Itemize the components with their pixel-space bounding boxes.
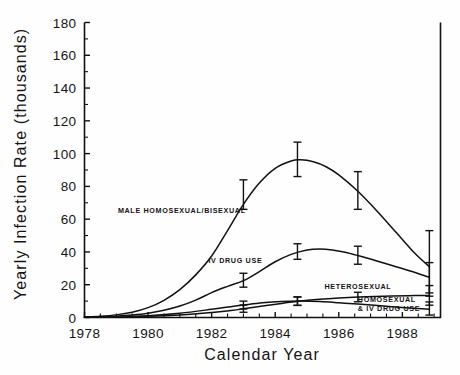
series-label-0: MALE HOMOSEXUAL/BISEXUAL <box>118 206 246 215</box>
figure-panel: Yearly Infection Rate (thousands) Calend… <box>0 0 460 375</box>
x-tick-label: 1980 <box>132 326 164 341</box>
infection-rate-line-chart: Yearly Infection Rate (thousands) Calend… <box>0 0 460 375</box>
series-curve-0 <box>85 160 430 317</box>
y-tick-label: 100 <box>53 147 77 162</box>
error-bar-s0-2 <box>354 172 362 210</box>
y-tick-label: 60 <box>61 212 77 227</box>
series-label-3: HOMOSEXUAL& IV DRUG USE <box>358 295 420 313</box>
y-tick-label: 0 <box>69 311 77 326</box>
error-bar-s1-0 <box>239 273 247 287</box>
y-tick-label: 140 <box>53 81 77 96</box>
x-tick-label: 1982 <box>196 326 228 341</box>
series-label-1: IV DRUG USE <box>208 256 262 265</box>
x-tick-label: 1986 <box>323 326 355 341</box>
x-axis-title: Calendar Year <box>204 346 320 363</box>
tick-labels: 0204060801001201401601801978198019821984… <box>53 16 418 341</box>
data-curves <box>85 160 430 318</box>
x-tick-label: 1988 <box>387 326 419 341</box>
y-axis-title: Yearly Infection Rate (thousands) <box>12 28 29 300</box>
y-tick-label: 40 <box>61 245 77 260</box>
y-tick-label: 180 <box>53 16 77 31</box>
y-tick-label: 120 <box>53 114 77 129</box>
series-label-2: HETEROSEXUAL <box>324 282 391 291</box>
y-tick-label: 80 <box>61 179 77 194</box>
axes <box>85 23 441 318</box>
x-tick-label: 1984 <box>259 326 291 341</box>
series-annotations: MALE HOMOSEXUAL/BISEXUALIV DRUG USEHETER… <box>118 206 420 314</box>
x-tick-label: 1978 <box>69 326 101 341</box>
y-tick-label: 160 <box>53 48 77 63</box>
y-tick-label: 20 <box>61 278 77 293</box>
